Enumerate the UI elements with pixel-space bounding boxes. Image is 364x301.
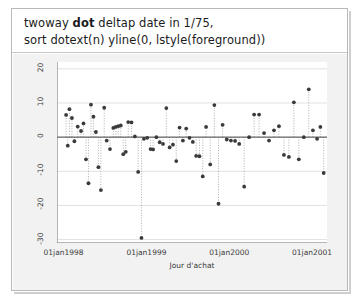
gridlines bbox=[57, 69, 327, 240]
y-tick-label: 10 bbox=[36, 90, 45, 112]
x-axis-label: Jour d'achat bbox=[162, 261, 222, 270]
figure-shadow-bottom bbox=[14, 292, 351, 294]
x-tick-label: 01jan2001 bbox=[282, 248, 342, 257]
y-tick-label: -20 bbox=[36, 193, 45, 215]
plot-area bbox=[57, 62, 327, 243]
command-block: twoway dot deltap date in 1/75, sort dot… bbox=[12, 9, 347, 53]
data-markers bbox=[64, 87, 325, 239]
x-tick-label: 01jan1998 bbox=[34, 248, 94, 257]
axis-lines bbox=[57, 62, 327, 243]
graph-region: Ecart au prix d'achat 20100-10-20-30 01j… bbox=[13, 54, 347, 290]
stem-lines bbox=[66, 89, 324, 238]
command-line-2: sort dotext(n) yline(0, lstyle(foregroun… bbox=[24, 32, 347, 49]
command-line-1-prefix: twoway bbox=[24, 16, 73, 30]
command-line-1-suffix: deltap date in 1/75, bbox=[95, 16, 214, 30]
y-tick-label: -10 bbox=[36, 159, 45, 181]
command-keyword-dot: dot bbox=[73, 16, 95, 30]
dot-plot-svg bbox=[57, 62, 327, 243]
figure-container: twoway dot deltap date in 1/75, sort dot… bbox=[11, 8, 348, 291]
y-tick-label: 0 bbox=[36, 125, 45, 147]
y-tick-label: 20 bbox=[36, 56, 45, 78]
y-tick-label: -30 bbox=[36, 227, 45, 249]
x-tick-label: 01jan2000 bbox=[199, 248, 259, 257]
axis-ticks bbox=[57, 69, 312, 243]
figure-shadow-right bbox=[349, 11, 351, 294]
command-line-1: twoway dot deltap date in 1/75, bbox=[24, 15, 347, 32]
x-tick-label: 01jan1999 bbox=[116, 248, 176, 257]
